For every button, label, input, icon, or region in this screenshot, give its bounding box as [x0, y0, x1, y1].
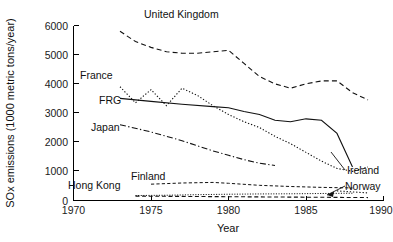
leader-lines	[327, 152, 345, 197]
x-tick-label-1975: 1975	[139, 204, 163, 216]
series-label-france: France	[80, 69, 113, 81]
y-axis-ticks	[74, 26, 79, 201]
series-path-france	[120, 87, 368, 172]
x-tick-label-1980: 1980	[217, 204, 241, 216]
series-label-japan: Japan	[91, 121, 120, 133]
y-tick-label-2000: 2000	[45, 136, 69, 148]
series-path-united-kingdom	[120, 31, 368, 100]
series-path-norway	[136, 196, 369, 197]
y-tick-label-3000: 3000	[45, 107, 69, 119]
x-axis-tick-labels: 1970 1975 1980 1985 1990	[62, 204, 393, 216]
series-label-hong-kong: Hong Kong	[68, 179, 121, 191]
y-tick-label-6000: 6000	[45, 20, 69, 32]
series-path-hong-kong	[136, 193, 353, 195]
x-axis-title: Year	[217, 222, 240, 234]
ireland-leader-line	[331, 152, 345, 170]
chart-canvas: 6000 5000 4000 3000 2000 1000 0 1970 197…	[0, 0, 393, 242]
x-tick-label-1985: 1985	[294, 204, 318, 216]
series-path-finland	[151, 182, 353, 188]
series-label-united-kingdom: United Kingdom	[144, 8, 219, 20]
series-path-japan	[120, 125, 275, 166]
y-tick-label-1000: 1000	[45, 165, 69, 177]
y-tick-label-5000: 5000	[45, 49, 69, 61]
y-axis-title: SOx emissions (1000 metric tons/year)	[4, 18, 16, 208]
y-axis-tick-labels: 6000 5000 4000 3000 2000 1000 0	[45, 20, 69, 207]
y-tick-label-4000: 4000	[45, 78, 69, 90]
x-tick-label-1990: 1990	[369, 204, 393, 216]
series-label-frg: FRG	[99, 94, 121, 106]
series-labels: United Kingdom France FRG Japan Finland …	[68, 8, 381, 192]
series-label-norway: Norway	[345, 180, 381, 192]
series-label-ireland: Ireland	[347, 164, 379, 176]
series-label-finland: Finland	[131, 170, 166, 182]
axes	[74, 26, 384, 201]
series-path-frg	[120, 98, 353, 167]
sox-emissions-chart: 6000 5000 4000 3000 2000 1000 0 1970 197…	[0, 0, 393, 242]
x-tick-label-1970: 1970	[62, 204, 86, 216]
